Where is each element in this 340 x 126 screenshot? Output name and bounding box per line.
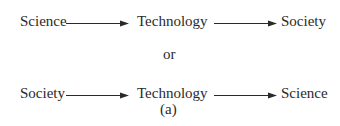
separator-or: or — [163, 47, 176, 62]
row1-node-society: Society — [281, 14, 326, 29]
arrow-icon — [214, 19, 277, 28]
row1-node-science: Science — [20, 14, 67, 29]
row2-node-science: Science — [281, 86, 328, 101]
arrow-icon — [214, 91, 277, 100]
row2-node-technology: Technology — [137, 86, 208, 101]
figure-caption: (a) — [160, 102, 177, 117]
arrow-icon — [66, 91, 129, 100]
row1-node-technology: Technology — [137, 14, 208, 29]
row2-node-society: Society — [20, 86, 65, 101]
arrow-icon — [66, 19, 129, 28]
